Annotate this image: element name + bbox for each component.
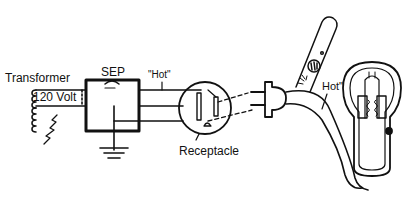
sep-box (86, 80, 139, 150)
circuit-wires (139, 82, 201, 121)
receptacle-label: Receptacle (179, 145, 239, 157)
hot-leader-line (322, 94, 327, 109)
voltage-label: 120 Volt (33, 91, 76, 103)
cord (286, 91, 368, 190)
plug-icon (251, 82, 286, 117)
hot-label-left: "Hot" (148, 70, 171, 80)
transformer-label: Transformer (5, 72, 70, 84)
light-bulb-icon (343, 62, 401, 176)
sep-label: SEP (101, 66, 125, 78)
hot-label-right: Hot" (322, 81, 343, 92)
wiring-diagram: Transformer 120 Volt SEP "Hot" Receptacl… (0, 0, 414, 205)
